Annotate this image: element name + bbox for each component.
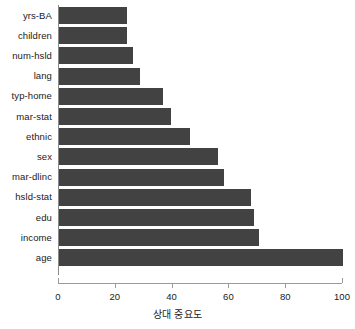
x-tick-20 xyxy=(115,283,116,288)
x-axis-title: 상대 중요도 xyxy=(0,306,355,321)
category-label-mar-stat: mar-stat xyxy=(0,111,52,122)
bar-income xyxy=(59,229,259,246)
bar-hsld-stat xyxy=(59,189,251,206)
x-tick-label-60: 60 xyxy=(223,291,234,302)
bar-lang xyxy=(59,68,140,85)
bar-yrs-BA xyxy=(59,7,127,24)
category-label-hsld-stat: hsld-stat xyxy=(0,191,52,202)
x-tick-label-80: 80 xyxy=(280,291,291,302)
category-label-ethnic: ethnic xyxy=(0,131,52,142)
bar-edu xyxy=(59,209,254,226)
category-label-yrs-BA: yrs-BA xyxy=(0,10,52,21)
bar-children xyxy=(59,27,127,44)
bar-mar-dlinc xyxy=(59,169,224,186)
bar-typ-home xyxy=(59,88,163,105)
x-tick-label-0: 0 xyxy=(55,291,60,302)
category-label-children: children xyxy=(0,30,52,41)
bar-age xyxy=(59,249,343,266)
category-label-lang: lang xyxy=(0,70,52,81)
relative-importance-bar-chart: yrs-BAchildrennum-hsldlangtyp-homemar-st… xyxy=(0,0,355,329)
category-label-typ-home: typ-home xyxy=(0,90,52,101)
category-label-age: age xyxy=(0,252,52,263)
bar-mar-stat xyxy=(59,108,171,125)
x-tick-80 xyxy=(285,283,286,288)
x-tick-40 xyxy=(172,283,173,288)
category-label-income: income xyxy=(0,232,52,243)
x-tick-0 xyxy=(58,278,59,283)
x-tick-label-40: 40 xyxy=(166,291,177,302)
x-tick-label-100: 100 xyxy=(334,291,350,302)
category-label-mar-dlinc: mar-dlinc xyxy=(0,171,52,182)
plot-area xyxy=(58,6,342,274)
x-tick-100 xyxy=(342,278,343,283)
x-tick-label-20: 20 xyxy=(110,291,121,302)
category-axis-labels: yrs-BAchildrennum-hsldlangtyp-homemar-st… xyxy=(0,6,52,274)
category-label-num-hsld: num-hsld xyxy=(0,50,52,61)
bar-ethnic xyxy=(59,128,190,145)
bar-sex xyxy=(59,148,218,165)
x-tick-60 xyxy=(228,283,229,288)
bar-num-hsld xyxy=(59,47,133,64)
category-label-sex: sex xyxy=(0,151,52,162)
category-label-edu: edu xyxy=(0,212,52,223)
x-axis-line xyxy=(58,283,342,284)
